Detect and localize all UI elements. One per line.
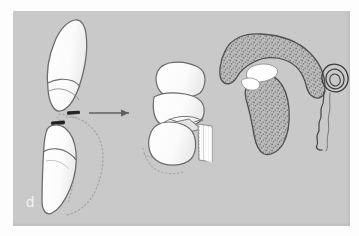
panel-edge-shade-bottom	[13, 222, 350, 226]
transection-marker-upper	[67, 111, 80, 115]
middle-upper-segment	[156, 62, 205, 97]
panel-edge-shade-right	[346, 11, 350, 226]
resected-gap-white-area-2	[242, 78, 260, 90]
hatched-limb-highlight	[206, 127, 212, 163]
illustration-canvas	[13, 11, 350, 226]
right-diagram-group	[220, 34, 350, 155]
middle-lower-segment	[149, 122, 196, 165]
process-arrow	[89, 110, 129, 117]
left-lower-organ-segment	[42, 125, 76, 214]
left-upper-organ-segment	[47, 20, 86, 111]
middle-diagram-group	[143, 62, 212, 173]
panel-label: d	[26, 194, 34, 209]
distal-bowel-tail	[316, 91, 325, 150]
illustration-panel: d	[13, 11, 350, 226]
figure-root: d	[0, 0, 359, 236]
left-diagram-group	[42, 20, 103, 215]
process-arrow-head	[121, 110, 129, 117]
distal-bowel-tail-2	[326, 93, 330, 151]
